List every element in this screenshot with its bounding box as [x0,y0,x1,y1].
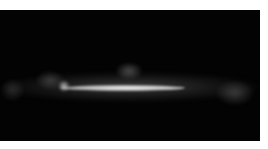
cloud-left [35,70,65,90]
cloud-above-plane [115,62,143,80]
bright-galactic-core [60,85,185,91]
cloud-far-left [0,78,25,102]
cloud-right [215,80,255,106]
galactic-plane-image [0,10,260,141]
